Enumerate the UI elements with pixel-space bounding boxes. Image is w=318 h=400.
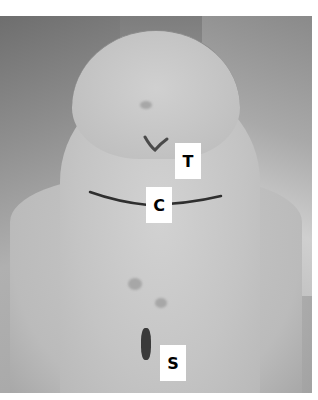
- t-v-marking: [143, 134, 169, 154]
- clinical-photo: T C S: [0, 16, 312, 393]
- label-t: T: [175, 143, 201, 179]
- skin-spot: [128, 278, 142, 290]
- s-marking: [141, 328, 151, 360]
- skin-spot: [140, 101, 152, 109]
- skin-spot: [155, 298, 167, 308]
- label-c: C: [146, 187, 172, 223]
- label-s: S: [160, 345, 186, 381]
